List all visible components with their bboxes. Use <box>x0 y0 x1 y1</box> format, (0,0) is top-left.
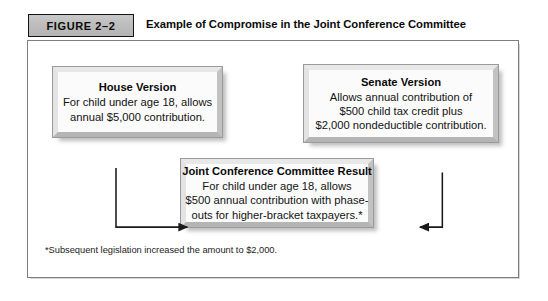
connector-senate-to-joint <box>420 173 442 228</box>
house-version-title: House Version <box>99 80 177 94</box>
joint-result-line-2: $500 annual contribution with phase- <box>186 193 369 207</box>
joint-result-line-3: outs for higher-bracket taxpayers.* <box>192 208 363 222</box>
senate-version-line-1: Allows annual contribution of <box>330 90 472 104</box>
senate-version-box: Senate Version Allows annual contributio… <box>304 65 498 142</box>
figure-frame: House Version For child under age 18, al… <box>27 40 519 278</box>
joint-result-title: Joint Conference Committee Result <box>182 164 372 178</box>
joint-result-box: Joint Conference Committee Result For ch… <box>181 159 373 227</box>
joint-result-line-1: For child under age 18, allows <box>202 179 351 193</box>
senate-version-title: Senate Version <box>361 75 441 89</box>
connector-house-to-joint <box>116 168 187 227</box>
figure-label-text: FIGURE 2–2 <box>47 20 116 32</box>
house-version-line-2: annual $5,000 contribution. <box>70 110 205 124</box>
senate-version-line-3: $2,000 nondeductible contribution. <box>315 118 486 132</box>
figure-label-badge: FIGURE 2–2 <box>28 14 134 37</box>
figure-header: FIGURE 2–2 Example of Compromise in the … <box>0 0 548 40</box>
house-version-box: House Version For child under age 18, al… <box>53 67 222 137</box>
senate-version-line-2: $500 child tax credit plus <box>339 104 462 118</box>
house-version-line-1: For child under age 18, allows <box>63 95 212 109</box>
figure-title: Example of Compromise in the Joint Confe… <box>146 18 466 30</box>
figure-footnote: *Subsequent legislation increased the am… <box>45 245 277 255</box>
